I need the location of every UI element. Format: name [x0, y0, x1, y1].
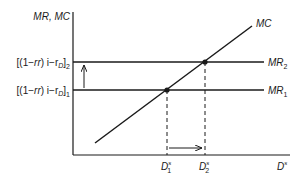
y-axis-label: MR, MC	[33, 11, 70, 22]
equilibrium-point-1	[164, 87, 169, 92]
x-tick-label-2: Ds2	[199, 160, 209, 174]
diagram-canvas: MR, MC [(1−rr) i−rD]2 [(1−rr) i−rD]1 MC …	[0, 0, 305, 179]
mc-line	[95, 26, 252, 143]
y-tick-label-1: [(1−rr) i−rD]1	[17, 85, 71, 98]
mr1-label: MR1	[268, 85, 288, 98]
x-tick-label-1: Ds1	[161, 160, 171, 174]
deposit-supply-diagram: MR, MC [(1−rr) i−rD]2 [(1−rr) i−rD]1 MC …	[0, 0, 305, 179]
y-tick-label-2: [(1−rr) i−rD]2	[17, 57, 71, 70]
equilibrium-point-2	[202, 59, 207, 64]
mr2-label: MR2	[268, 57, 288, 70]
x-axis-label: Ds	[277, 160, 287, 172]
mc-label: MC	[256, 18, 272, 29]
